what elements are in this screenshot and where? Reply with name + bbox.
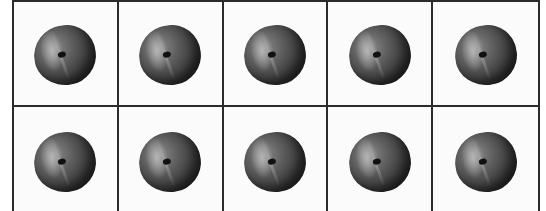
frame-cell (119, 107, 224, 211)
ten-frame-grid (12, 0, 540, 211)
frame-cell (433, 2, 538, 107)
frame-cell (433, 107, 538, 211)
frame-cell (119, 2, 224, 107)
frame-cell (328, 2, 433, 107)
peach-icon (240, 21, 310, 89)
peach-icon (240, 128, 310, 196)
frame-cell (224, 2, 329, 107)
frame-cell (14, 107, 119, 211)
peach-icon (451, 21, 521, 89)
peach-icon (31, 21, 101, 89)
frame-cell (224, 107, 329, 211)
peach-icon (345, 21, 415, 89)
frame-cell (14, 2, 119, 107)
frame-cell (328, 107, 433, 211)
peach-icon (31, 128, 101, 196)
peach-icon (135, 21, 205, 89)
peach-icon (345, 128, 415, 196)
peach-icon (135, 128, 205, 196)
peach-icon (451, 128, 521, 196)
